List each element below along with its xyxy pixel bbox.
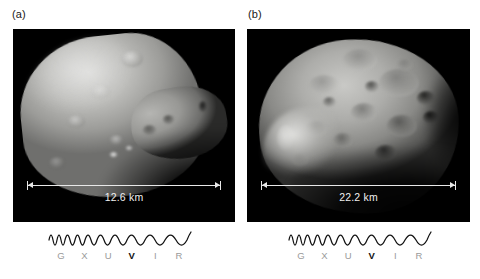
crater <box>309 75 339 95</box>
crater <box>397 59 413 71</box>
crater <box>351 103 377 122</box>
scale-bar-left-cap <box>28 182 33 188</box>
spectrum-letter-u: U <box>102 250 114 261</box>
spectrum-letters: G X U V I R <box>295 250 425 261</box>
scale-bar-line <box>261 185 456 186</box>
spectrum-wave-icon <box>47 228 193 252</box>
panel-b: (b) <box>240 0 480 279</box>
crater <box>365 81 379 92</box>
panel-a: (a) 12.6 km <box>0 0 240 279</box>
spectrum-letter-v: V <box>126 250 138 261</box>
panel-b-image: 22.2 km <box>247 29 470 222</box>
spectrum-letters: G X U V I R <box>55 250 185 261</box>
spectrum-letter-g: G <box>295 250 307 261</box>
crater <box>343 49 377 71</box>
spectrum-letter-x: X <box>79 250 91 261</box>
spectrum-letter-x: X <box>319 250 331 261</box>
panel-a-image: 12.6 km <box>13 29 235 222</box>
scale-bar-right-cap <box>450 182 455 188</box>
spectrum-letter-r: R <box>413 250 425 261</box>
scale-bar-right-cap <box>215 182 220 188</box>
panel-b-spectrum: G X U V I R <box>240 228 480 274</box>
spectrum-letter-v: V <box>366 250 378 261</box>
spectrum-letter-u: U <box>342 250 354 261</box>
figure-container: (a) 12.6 km <box>0 0 480 279</box>
scale-bar-label: 12.6 km <box>13 191 235 203</box>
crater <box>323 97 336 107</box>
panel-b-label: (b) <box>248 8 262 20</box>
scale-bar-label: 22.2 km <box>247 191 470 203</box>
spectrum-letter-i: I <box>389 250 401 261</box>
spectrum-letter-g: G <box>55 250 67 261</box>
spectrum-letter-r: R <box>173 250 185 261</box>
panel-a-label: (a) <box>12 8 26 20</box>
spectrum-wave-icon <box>287 228 433 252</box>
panel-a-spectrum: G X U V I R <box>0 228 240 274</box>
scale-bar-line <box>27 185 221 186</box>
spectrum-letter-i: I <box>149 250 161 261</box>
scale-bar-left-cap <box>262 182 267 188</box>
